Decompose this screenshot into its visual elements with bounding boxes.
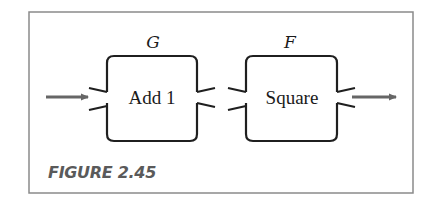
function-name-f: F	[283, 32, 297, 52]
function-composition-diagram: G Add 1 F Square FIGURE 2.45	[0, 0, 442, 204]
function-label-f: Square	[266, 87, 319, 108]
figure-caption: FIGURE 2.45	[48, 163, 156, 182]
function-name-g: G	[146, 32, 160, 52]
function-label-g: Add 1	[129, 87, 176, 108]
